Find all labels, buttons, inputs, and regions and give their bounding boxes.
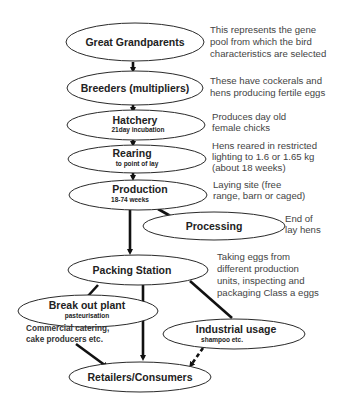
node-sublabel: 21day incubation [111, 126, 164, 134]
note-production: Laying site (free range, barn or caged) [213, 179, 305, 201]
note-line: hens producing fertile eggs [210, 87, 325, 98]
node-hatchery: Hatchery 21day incubation [67, 110, 205, 140]
node-great-grandparents: Great Grandparents [66, 23, 204, 61]
note-line: Taking eggs from [217, 251, 290, 262]
note-line: lighting to 1.6 or 1.65 kg [212, 151, 314, 162]
node-breeders: Breeders (multipliers) [67, 71, 203, 105]
note-line: different production [217, 263, 299, 274]
node-sublabel: shampoo etc. [201, 336, 243, 344]
note-line: cake producers etc. [26, 335, 103, 344]
note-processing: End of lay hens [285, 213, 321, 235]
node-label: Industrial usage [196, 323, 277, 335]
note-line: Produces day old [212, 111, 286, 122]
node-sublabel: to point of lay [116, 160, 159, 168]
node-label: Breeders (multipliers) [81, 82, 190, 94]
note-line: packaging Class a eggs [217, 287, 319, 298]
node-label: Processing [186, 220, 243, 232]
node-break-out-plant: Break out plant pasteurisation [18, 295, 158, 327]
note-line: End of [285, 213, 313, 224]
edge-breakout-retailers [76, 344, 106, 366]
note-great-grandparents: This represents the gene pool from which… [210, 24, 326, 59]
note-break-out-plant: Commercial catering, cake producers etc. [26, 324, 109, 344]
note-packing-station: Taking eggs from different production un… [217, 251, 319, 298]
note-breeders: These have cockerals and hens producing … [210, 75, 325, 98]
note-line: Hens reared in restricted [212, 140, 317, 151]
note-hatchery: Produces day old female chicks [212, 111, 286, 133]
node-processing: Processing [143, 212, 285, 240]
note-line: female chicks [212, 122, 270, 133]
edge-packing-breakout [88, 285, 98, 296]
node-label: Hatchery [113, 114, 158, 126]
node-sublabel: 18-74 weeks [111, 196, 149, 203]
note-line: Commercial catering, [26, 324, 109, 333]
note-rearing: Hens reared in restricted lighting to 1.… [212, 140, 317, 173]
note-line: Laying site (free [213, 179, 281, 190]
note-line: (about 18 weeks) [212, 162, 286, 173]
node-packing-station: Packing Station [68, 255, 208, 285]
node-retailers-consumers: Retailers/Consumers [69, 362, 211, 392]
note-line: units, inspecting and [217, 275, 304, 286]
note-line: lay hens [285, 224, 321, 235]
note-line: characteristics are selected [210, 48, 326, 59]
note-line: pool from which the bird [210, 36, 312, 47]
edge-industrial-retailers [191, 348, 203, 365]
note-line: This represents the gene [210, 24, 316, 35]
node-rearing: Rearing to point of lay [68, 145, 206, 173]
node-sublabel: pasteurisation [65, 312, 109, 320]
note-line: range, barn or caged) [213, 190, 305, 201]
note-line: These have cockerals and [210, 75, 322, 86]
node-production: Production 18-74 weeks [69, 180, 207, 210]
egg-supply-chain-diagram: Great Grandparents Breeders (multipliers… [0, 0, 339, 405]
node-label: Rearing [112, 147, 151, 159]
node-label: Great Grandparents [85, 36, 184, 48]
node-label: Packing Station [93, 264, 172, 276]
node-label: Production [112, 183, 167, 195]
node-industrial-usage: Industrial usage shampoo etc. [163, 319, 305, 349]
node-label: Retailers/Consumers [87, 371, 192, 383]
node-label: Break out plant [49, 299, 126, 311]
